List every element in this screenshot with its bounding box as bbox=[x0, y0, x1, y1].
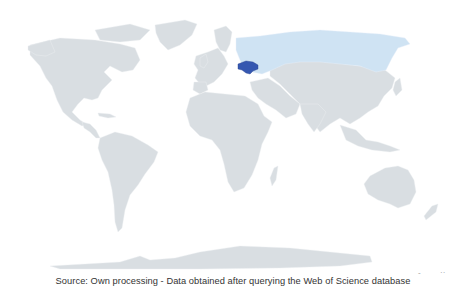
region-new-zealand bbox=[424, 204, 438, 220]
region-greenland bbox=[155, 20, 197, 50]
stray-mark: - bbox=[418, 268, 421, 277]
region-central-america bbox=[82, 122, 100, 138]
region-caribbean bbox=[98, 113, 116, 118]
region-arctic-islands bbox=[95, 24, 150, 42]
source-caption: Source: Own processing - Data obtained a… bbox=[0, 276, 466, 286]
region-europe-west bbox=[194, 48, 228, 86]
region-australia bbox=[364, 166, 416, 208]
stray-mark: ·· bbox=[440, 268, 445, 277]
region-se-asia bbox=[340, 125, 400, 152]
world-map bbox=[0, 0, 466, 291]
region-scandinavia bbox=[214, 26, 232, 52]
region-madagascar bbox=[270, 166, 278, 186]
region-south-america bbox=[98, 132, 158, 232]
region-antarctica bbox=[50, 246, 372, 269]
region-africa bbox=[186, 92, 272, 192]
